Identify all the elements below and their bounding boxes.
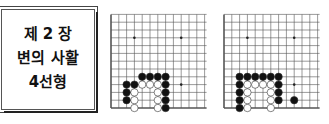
black-stone bbox=[146, 73, 153, 80]
star-point bbox=[293, 83, 296, 86]
white-stone bbox=[244, 97, 251, 104]
white-stone bbox=[131, 104, 138, 111]
white-stone bbox=[244, 89, 251, 96]
black-stone bbox=[275, 89, 282, 96]
black-stone bbox=[236, 81, 243, 88]
white-stone bbox=[131, 97, 138, 104]
white-stone bbox=[252, 81, 259, 88]
white-stone bbox=[139, 81, 146, 88]
white-stone bbox=[154, 97, 161, 104]
go-board-diagram-2 bbox=[220, 0, 322, 124]
black-stone bbox=[244, 73, 251, 80]
star-point bbox=[133, 37, 136, 40]
black-stone bbox=[252, 73, 259, 80]
white-stone bbox=[131, 89, 138, 96]
black-stone bbox=[259, 73, 266, 80]
black-stone bbox=[139, 73, 146, 80]
black-stone bbox=[236, 97, 243, 104]
black-stone bbox=[162, 97, 169, 104]
white-stone bbox=[267, 97, 274, 104]
star-point bbox=[180, 83, 183, 86]
black-stone bbox=[275, 73, 282, 80]
chapter-number: 제 2 장 bbox=[2, 22, 94, 46]
black-stone bbox=[275, 97, 282, 104]
white-stone bbox=[154, 81, 161, 88]
black-stone bbox=[162, 73, 169, 80]
chapter-subject: 변의 사활 bbox=[2, 46, 94, 70]
white-stone bbox=[154, 89, 161, 96]
black-stone bbox=[291, 97, 298, 104]
black-stone bbox=[123, 81, 130, 88]
black-stone bbox=[236, 73, 243, 80]
white-stone bbox=[259, 81, 266, 88]
white-stone bbox=[154, 104, 161, 111]
star-point bbox=[180, 37, 183, 40]
white-stone bbox=[267, 104, 274, 111]
chapter-title: 제 2 장 변의 사활 4선형 bbox=[2, 22, 94, 94]
white-stone bbox=[244, 104, 251, 111]
go-board-diagram-1 bbox=[107, 0, 209, 124]
black-stone bbox=[123, 97, 130, 104]
black-stone bbox=[236, 89, 243, 96]
chapter-title-box: 제 2 장 변의 사활 4선형 bbox=[1, 9, 95, 110]
white-stone bbox=[244, 81, 251, 88]
white-stone bbox=[267, 81, 274, 88]
star-point bbox=[293, 37, 296, 40]
black-stone bbox=[267, 73, 274, 80]
black-stone bbox=[154, 73, 161, 80]
black-stone bbox=[275, 81, 282, 88]
black-stone bbox=[236, 104, 243, 111]
black-stone bbox=[162, 89, 169, 96]
black-stone bbox=[162, 81, 169, 88]
black-stone bbox=[162, 104, 169, 111]
white-stone bbox=[146, 81, 153, 88]
section-name: 4선형 bbox=[2, 70, 94, 94]
black-stone bbox=[123, 89, 130, 96]
black-stone bbox=[131, 81, 138, 88]
white-stone bbox=[267, 89, 274, 96]
star-point bbox=[246, 37, 249, 40]
